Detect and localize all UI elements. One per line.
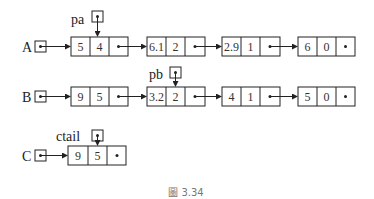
pointer-c-label: C <box>22 149 31 164</box>
node-coef: 6.1 <box>149 40 164 54</box>
pointer-ctail-label: ctail <box>56 129 80 144</box>
node-exp: 4 <box>97 40 103 54</box>
node-coef: 9 <box>78 90 84 104</box>
node-exp: 2 <box>173 40 179 54</box>
pointer-b-label: B <box>22 90 31 105</box>
list-node: 9 5 <box>68 146 126 165</box>
node-coef: 5 <box>78 40 84 54</box>
null-link-dot-icon <box>116 154 119 157</box>
pointer-pb: pb <box>149 67 181 86</box>
list-a: A 5 4 6.1 2 2.9 1 <box>22 37 355 56</box>
node-coef: 3.2 <box>149 90 164 104</box>
node-exp: 0 <box>324 90 330 104</box>
node-exp: 5 <box>97 90 103 104</box>
null-link-dot-icon <box>344 45 347 48</box>
node-coef: 9 <box>75 149 81 163</box>
node-exp: 0 <box>324 40 330 54</box>
pointer-a-label: A <box>22 40 33 55</box>
node-coef: 4 <box>229 90 235 104</box>
figure-caption: 圖 3.34 <box>168 187 203 198</box>
node-coef: 5 <box>305 90 311 104</box>
pointer-ctail: ctail <box>56 129 103 145</box>
list-node: 5 0 <box>298 87 355 106</box>
node-coef: 6 <box>305 40 311 54</box>
linked-list-diagram: A 5 4 6.1 2 2.9 1 <box>0 0 374 199</box>
list-b: B 9 5 3.2 2 4 1 <box>22 87 355 106</box>
list-c: C 9 5 <box>22 146 126 165</box>
node-exp: 1 <box>248 90 254 104</box>
pointer-pa: pa <box>71 11 103 36</box>
null-link-dot-icon <box>344 95 347 98</box>
node-coef: 2.9 <box>224 40 239 54</box>
pointer-pb-label: pb <box>149 67 163 82</box>
list-node: 6 0 <box>298 37 355 56</box>
node-exp: 1 <box>248 40 254 54</box>
node-exp: 2 <box>173 90 179 104</box>
pointer-pa-label: pa <box>71 12 85 27</box>
node-exp: 5 <box>95 149 101 163</box>
